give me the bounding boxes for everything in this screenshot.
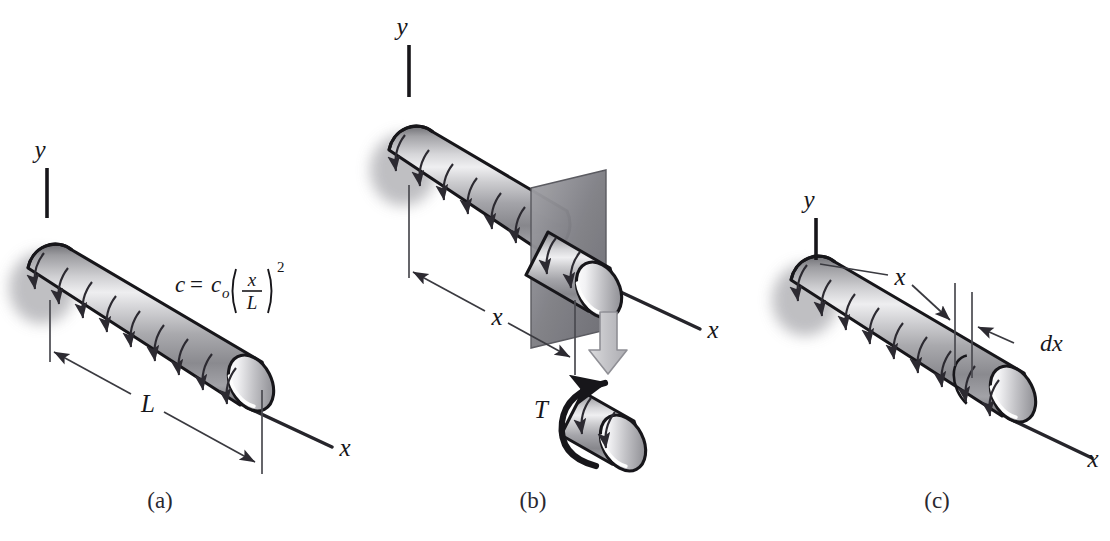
dimension-label-l: L	[140, 390, 155, 417]
panel-a: y x L c = c o x L 2 (a)	[9, 136, 351, 513]
panel-b: y x x T (b)	[370, 13, 719, 513]
equation-fraction-numerator: x	[247, 269, 257, 290]
equation-equals: =	[190, 272, 203, 297]
equation-paren-open	[233, 269, 237, 313]
axis-x-line-c	[1008, 418, 1092, 458]
axis-x-label-c: x	[1086, 445, 1098, 472]
axis-x-label-b: x	[706, 316, 718, 343]
axis-y-label-c: y	[800, 186, 815, 213]
dim-leader-dx-c	[978, 327, 1014, 343]
caption-c: (c)	[924, 488, 950, 513]
dim-line-l-left	[54, 352, 131, 394]
axis-y-label-b: y	[393, 13, 408, 40]
dim-line-l-right	[164, 412, 255, 462]
dim-line-x-left-b	[413, 272, 485, 311]
axis-y-label-a: y	[31, 136, 46, 163]
caption-b: (b)	[520, 488, 547, 513]
axis-x-line-b	[612, 288, 700, 329]
torque-label-b: T	[534, 396, 550, 423]
panel-c: y x x dx (c)	[772, 186, 1099, 513]
torsion-shaft-figure: y x L c = c o x L 2 (a)	[0, 0, 1110, 541]
free-body-segment-b	[561, 392, 655, 479]
equation-fraction-denominator: L	[246, 292, 258, 313]
equation-a: c = c o x L 2	[175, 259, 285, 313]
equation-lhs: c	[175, 272, 185, 297]
equation-paren-close	[268, 269, 272, 313]
figure-canvas: y x L c = c o x L 2 (a)	[0, 0, 1110, 541]
equation-exponent: 2	[277, 259, 285, 275]
axis-x-line-a	[246, 407, 332, 447]
dimension-label-x-c: x	[893, 263, 905, 290]
axis-x-label-a: x	[338, 434, 350, 461]
equation-coefficient-subscript: o	[222, 285, 230, 301]
equation-coefficient: c	[211, 272, 221, 297]
caption-a: (a)	[147, 488, 173, 513]
element-label-dx: dx	[1040, 330, 1063, 356]
dimension-label-x-b: x	[490, 303, 502, 330]
